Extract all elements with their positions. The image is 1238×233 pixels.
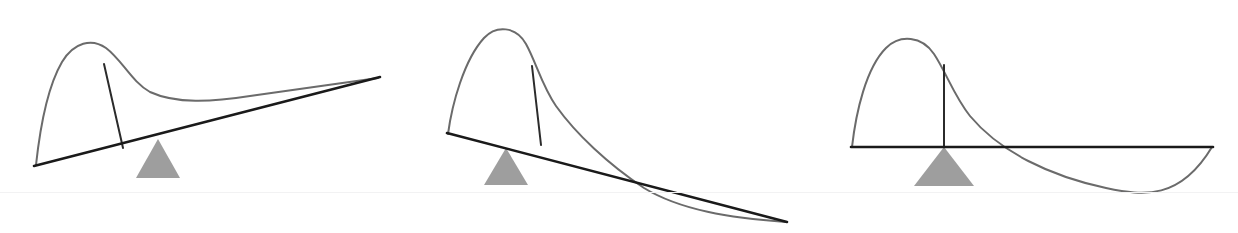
- panel-left-canvas: [0, 0, 412, 233]
- panel-right: [824, 0, 1238, 233]
- density-curve: [448, 29, 786, 222]
- balance-beam: [34, 77, 380, 166]
- fulcrum-triangle: [136, 139, 180, 178]
- mean-marker-line: [104, 64, 123, 148]
- panel-right-canvas: [824, 0, 1238, 233]
- fulcrum-triangle: [914, 147, 974, 186]
- panel-middle: [412, 0, 824, 233]
- density-curve: [36, 43, 378, 165]
- baseline-divider: [0, 192, 1238, 193]
- mean-marker-line: [532, 66, 541, 145]
- panel-middle-canvas: [412, 0, 824, 233]
- density-curve: [852, 39, 1212, 193]
- panel-left: [0, 0, 412, 233]
- figure-root: [0, 0, 1238, 233]
